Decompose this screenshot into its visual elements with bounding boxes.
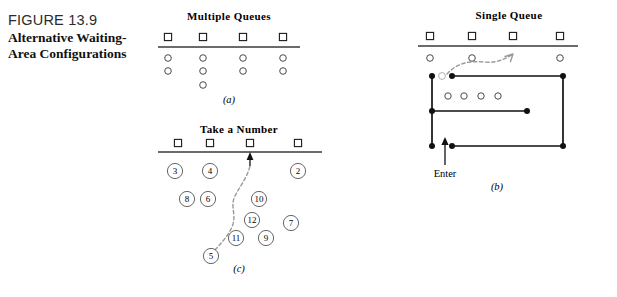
panel-c-heading: Take a Number [200, 123, 278, 135]
panel-b-walk-path [447, 54, 513, 74]
rope-post [524, 108, 530, 114]
rope-post [429, 143, 435, 149]
panel-b-letter: (b) [491, 181, 504, 193]
waiting-person [240, 68, 247, 75]
ticket-number: 7 [289, 218, 294, 228]
service-station-1 [164, 33, 171, 40]
rope-post [449, 73, 455, 79]
service-station-1 [426, 32, 433, 39]
panel-b-stations [426, 32, 563, 39]
waiting-person [280, 68, 287, 75]
ticket-holder: 10 [251, 191, 266, 206]
rope-post [429, 108, 435, 114]
panel-c-letter: (c) [233, 263, 245, 275]
ticket-holder: 7 [283, 215, 298, 230]
panel-b-single-queue: Single Queue Enter (b) [418, 9, 578, 193]
panel-c-arrowhead [247, 152, 254, 160]
ticket-holder: 11 [228, 230, 243, 245]
panel-b-enter-arrowhead [441, 137, 448, 145]
ticket-number: 2 [296, 166, 301, 176]
ticket-number: 9 [264, 233, 269, 243]
panel-a-letter: (a) [223, 94, 236, 106]
ticket-holder: 12 [244, 212, 259, 227]
panel-a-heading: Multiple Queues [187, 10, 271, 22]
rope-post [429, 73, 435, 79]
service-station-4 [279, 33, 286, 40]
service-station-3 [246, 139, 253, 146]
panel-a-multiple-queues: Multiple Queues (a) [158, 10, 300, 106]
ticket-holder: 5 [203, 248, 218, 263]
ticket-holder: 3 [167, 163, 182, 178]
served-person [557, 55, 564, 62]
figure-diagram: Multiple Queues (a) Single Queue [0, 0, 617, 297]
served-person [469, 55, 476, 62]
waiting-person [445, 93, 451, 99]
ticket-holder: 2 [290, 163, 305, 178]
ticket-number: 4 [208, 166, 213, 176]
service-station-2 [206, 139, 213, 146]
service-station-1 [174, 139, 181, 146]
waiting-person [240, 55, 247, 62]
panel-b-rope-barriers [432, 76, 563, 146]
waiting-person [165, 68, 172, 75]
panel-c-stations [174, 139, 301, 146]
served-person [427, 55, 434, 62]
panel-b-enter-label: Enter [434, 168, 457, 179]
ticket-holder: 4 [202, 163, 217, 178]
ticket-number: 12 [248, 215, 257, 225]
service-station-4 [294, 139, 301, 146]
waiting-person [478, 93, 484, 99]
ticket-number: 6 [206, 194, 211, 204]
panel-a-queue-people [165, 55, 287, 89]
rope-post [560, 143, 566, 149]
service-station-2 [468, 32, 475, 39]
ticket-number: 3 [173, 166, 178, 176]
waiting-person [495, 93, 501, 99]
panel-a-stations [164, 33, 286, 40]
waiting-person [200, 82, 207, 89]
service-station-3 [239, 33, 246, 40]
ticket-number: 8 [185, 194, 190, 204]
rope-post [449, 143, 455, 149]
ticket-holder: 8 [179, 191, 194, 206]
ticket-number: 5 [209, 251, 214, 261]
service-station-3 [509, 32, 516, 39]
waiting-person [461, 93, 467, 99]
ticket-number: 10 [255, 194, 265, 204]
waiting-person [200, 55, 207, 62]
panel-b-head-customer [439, 73, 446, 80]
panel-c-ticket-holders: 34286101271195 [167, 163, 305, 263]
rope-post [560, 73, 566, 79]
service-station-4 [556, 32, 563, 39]
waiting-person [200, 68, 207, 75]
panel-b-queued-people [445, 93, 501, 99]
figure-13-9: FIGURE 13.9 Alternative Waiting- Area Co… [0, 0, 617, 297]
panel-b-heading: Single Queue [476, 9, 543, 21]
panel-c-take-a-number: Take a Number 34286101271195 (c) [158, 123, 322, 275]
ticket-holder: 6 [200, 191, 215, 206]
panel-b-served-people [427, 55, 564, 62]
waiting-person [280, 55, 287, 62]
waiting-person [165, 55, 172, 62]
service-station-2 [199, 33, 206, 40]
ticket-number: 11 [232, 233, 241, 243]
ticket-holder: 9 [258, 230, 273, 245]
